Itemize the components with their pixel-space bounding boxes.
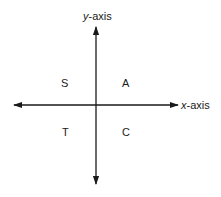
quadrant-label-bottom-left: T bbox=[62, 126, 69, 138]
quadrant-label-bottom-right: C bbox=[122, 126, 130, 138]
x-axis-suffix: -axis bbox=[187, 99, 210, 111]
cast-diagram: y-axis x-axis S A T C bbox=[0, 0, 221, 197]
quadrant-label-top-left: S bbox=[61, 77, 68, 89]
quadrant-label-top-right: A bbox=[122, 77, 129, 89]
x-axis-label: x-axis bbox=[181, 99, 210, 111]
y-axis-label: y-axis bbox=[83, 10, 112, 22]
y-axis-suffix: -axis bbox=[89, 10, 112, 22]
